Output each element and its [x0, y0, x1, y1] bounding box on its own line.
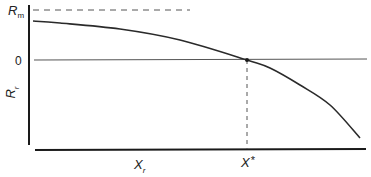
diagram-figure: Rm 0 Rr Xr X* — [0, 0, 371, 177]
x-axis — [35, 149, 366, 150]
rm-label-sub: m — [17, 11, 24, 20]
rm-label-main: R — [8, 3, 17, 18]
x-axis-label: Xr — [134, 158, 145, 175]
xstar-label-sup: * — [251, 154, 255, 166]
diagram-canvas — [0, 0, 371, 177]
zero-label: 0 — [15, 55, 22, 67]
x-axis-label-sub: r — [143, 166, 146, 175]
y-axis-label: Rr — [4, 86, 21, 98]
intersection-point — [245, 58, 249, 62]
zero-label-text: 0 — [15, 54, 22, 68]
x-axis-label-main: X — [134, 157, 143, 172]
xstar-label: X* — [241, 155, 255, 169]
y-axis-label-main: R — [3, 89, 18, 98]
y-axis-label-sub: r — [12, 86, 21, 89]
zero-line — [34, 59, 367, 60]
response-curve — [33, 21, 360, 138]
xstar-label-main: X — [241, 155, 250, 170]
rm-label: Rm — [8, 4, 24, 20]
